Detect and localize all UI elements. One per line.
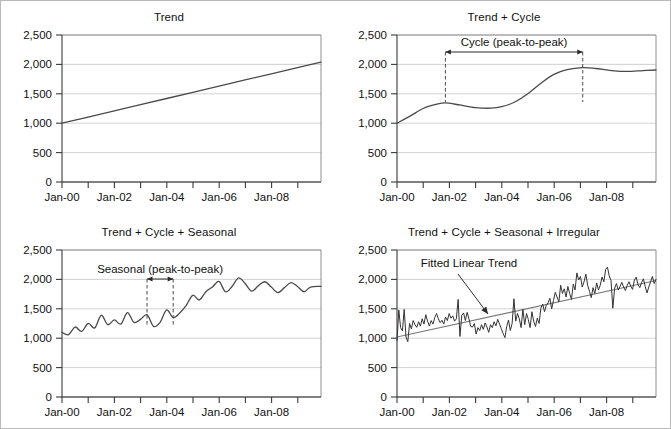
y-tick-1000: 1,000 <box>358 117 387 129</box>
chart-trend: 2,500 2,000 1,500 1,000 500 0 Jan-00 Jan… <box>1 7 337 215</box>
gridlines-trend <box>62 35 321 153</box>
panel-trend-cycle: Trend + Cycle 2,500 2,000 1,5 <box>336 7 671 215</box>
y-tick-1500: 1,500 <box>358 88 387 100</box>
y-tick-0: 0 <box>46 391 52 403</box>
y-tick-2500: 2,500 <box>23 29 52 41</box>
y-tick-2500: 2,500 <box>358 244 387 256</box>
series-line-trend-cycle-seasonal <box>62 278 321 335</box>
x-ticks-trend-cycle-seasonal <box>62 397 298 403</box>
x-ticks-trend-cycle-seasonal-irregular <box>397 397 633 403</box>
panel-title-trend-cycle: Trend + Cycle <box>336 11 671 23</box>
y-ticks-trend-cycle <box>391 35 397 182</box>
x-tick-jan04: Jan-04 <box>484 191 520 203</box>
y-tick-500: 500 <box>368 147 387 159</box>
chart-trend-cycle-seasonal-irregular: 2,500 2,000 1,500 1,000 500 0 Jan-00 Jan… <box>336 222 671 429</box>
panel-title-trend: Trend <box>1 11 337 23</box>
y-tick-2000: 2,000 <box>358 58 387 70</box>
y-ticks-trend-cycle-seasonal <box>56 250 62 397</box>
annotation-label-fitted-linear-trend: Fitted Linear Trend <box>421 257 518 269</box>
x-tick-jan06: Jan-06 <box>537 191 572 203</box>
x-ticks-trend <box>62 182 298 188</box>
annotation-label-seasonal: Seasonal (peak-to-peak) <box>97 263 223 275</box>
panel-trend: Trend 2,500 <box>1 7 337 215</box>
panel-title-trend-cycle-seasonal-irregular: Trend + Cycle + Seasonal + Irregular <box>336 226 671 238</box>
chart-trend-cycle: 2,500 2,000 1,500 1,000 500 0 Jan-00 Jan… <box>336 7 671 215</box>
plot-box-trend <box>62 35 321 182</box>
x-tick-jan04: Jan-04 <box>149 191 185 203</box>
y-ticks-trend-cycle-seasonal-irregular <box>391 250 397 397</box>
y-tick-1000: 1,000 <box>358 332 387 344</box>
y-tick-0: 0 <box>46 176 52 188</box>
x-tick-jan04: Jan-04 <box>149 406 185 418</box>
panel-trend-cycle-seasonal-irregular: Trend + Cycle + Seasonal + Irregular 2,5… <box>336 222 671 429</box>
y-tick-500: 500 <box>33 147 52 159</box>
x-tick-jan08: Jan-08 <box>589 406 624 418</box>
y-tick-500: 500 <box>368 362 387 374</box>
x-tick-jan08: Jan-08 <box>589 191 624 203</box>
y-tick-500: 500 <box>33 362 52 374</box>
y-tick-1500: 1,500 <box>23 88 52 100</box>
x-ticks-trend-cycle <box>397 182 633 188</box>
chart-trend-cycle-seasonal: 2,500 2,000 1,500 1,000 500 0 Jan-00 Jan… <box>1 222 337 429</box>
x-tick-jan06: Jan-06 <box>202 191 237 203</box>
annotation-seasonal-peak-to-peak <box>147 276 173 325</box>
y-tick-1000: 1,000 <box>23 117 52 129</box>
y-tick-2500: 2,500 <box>358 29 387 41</box>
series-line-trend-cycle <box>397 68 656 124</box>
y-tick-2000: 2,000 <box>23 58 52 70</box>
x-tick-jan04: Jan-04 <box>484 406 520 418</box>
y-tick-1000: 1,000 <box>23 332 52 344</box>
x-tick-jan06: Jan-06 <box>537 406 572 418</box>
figure-panel-grid: Trend 2,500 <box>0 0 671 429</box>
y-tick-1500: 1,500 <box>23 303 52 315</box>
x-tick-jan08: Jan-08 <box>254 406 289 418</box>
panel-trend-cycle-seasonal: Trend + Cycle + Seasonal 2,500 2,00 <box>1 222 337 429</box>
x-tick-jan00: Jan-00 <box>379 406 414 418</box>
plot-box-trend-cycle-seasonal-irregular <box>397 250 656 397</box>
x-tick-jan00: Jan-00 <box>44 191 79 203</box>
x-tick-jan08: Jan-08 <box>254 191 289 203</box>
y-tick-1500: 1,500 <box>358 303 387 315</box>
x-tick-jan02: Jan-02 <box>97 406 132 418</box>
y-tick-2000: 2,000 <box>358 273 387 285</box>
x-tick-jan02: Jan-02 <box>97 191 132 203</box>
annotation-label-cycle: Cycle (peak-to-peak) <box>461 36 568 48</box>
plot-box-trend-cycle <box>397 35 656 182</box>
x-tick-jan00: Jan-00 <box>379 191 414 203</box>
y-tick-0: 0 <box>381 176 387 188</box>
y-tick-2500: 2,500 <box>23 244 52 256</box>
annotation-fitted-linear-trend-arrow <box>458 274 488 314</box>
x-tick-jan02: Jan-02 <box>432 406 467 418</box>
panel-title-trend-cycle-seasonal: Trend + Cycle + Seasonal <box>1 226 337 238</box>
y-tick-0: 0 <box>381 391 387 403</box>
x-tick-jan06: Jan-06 <box>202 406 237 418</box>
gridlines-trend-cycle <box>397 35 656 153</box>
y-tick-2000: 2,000 <box>23 273 52 285</box>
series-line-trend <box>62 62 321 123</box>
x-tick-jan02: Jan-02 <box>432 191 467 203</box>
y-ticks-trend <box>56 35 62 182</box>
x-tick-jan00: Jan-00 <box>44 406 79 418</box>
series-line-observed <box>397 267 656 342</box>
